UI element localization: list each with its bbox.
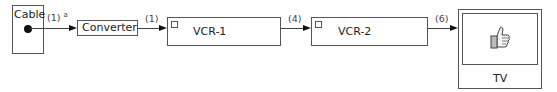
cable-label: Cable: [14, 8, 45, 21]
thumbs-up-icon: [488, 25, 512, 51]
tv-label: TV: [493, 72, 507, 85]
vcr2-indicator-square: [315, 21, 322, 28]
footnote-marker: a: [64, 11, 68, 19]
arrowhead-icon: [303, 25, 311, 31]
arrowhead-icon: [69, 25, 77, 31]
converter-label: Converter: [82, 21, 137, 34]
connection-line-converter-vcr1: [138, 28, 160, 29]
connection-label-3: (4): [288, 13, 301, 24]
arrowhead-icon: [159, 25, 167, 31]
connection-line-cable-converter: [30, 28, 70, 29]
arrowhead-icon: [450, 25, 458, 31]
cable-connector-dot: [24, 25, 32, 33]
connection-label-1: (1) a: [47, 11, 68, 23]
vcr1-indicator-square: [171, 21, 178, 28]
connection-label-4: (6): [435, 13, 448, 24]
connection-label-text: (1): [47, 12, 60, 23]
vcr2-label: VCR-2: [338, 25, 371, 38]
connection-line-vcr2-tv: [428, 28, 451, 29]
connection-line-vcr1-vcr2: [281, 28, 304, 29]
vcr1-label: VCR-1: [193, 25, 226, 38]
connection-label-2: (1): [145, 13, 158, 24]
